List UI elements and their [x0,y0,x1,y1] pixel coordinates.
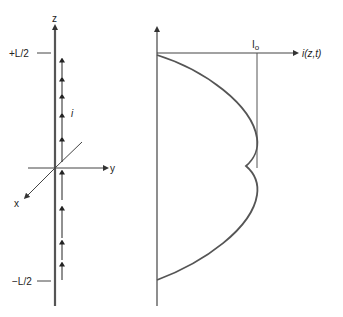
x-axis-label: x [14,198,19,209]
peak-marker-label: Io [252,39,260,52]
z-axis-label: z [52,13,57,24]
x-axis-back [55,142,82,168]
current-distribution-curve [157,55,257,280]
bottom-marker-label: −L/2 [12,276,32,287]
left-panel: z y x +L/2 −L/2 i [9,13,115,306]
dipole-diagram: z y x +L/2 −L/2 i [0,0,343,317]
top-marker-label: +L/2 [9,48,29,59]
current-axis-label: i(z,t) [302,48,321,59]
current-label: i [71,108,74,119]
x-axis [26,168,55,197]
right-panel: i(z,t) Io [157,29,321,306]
y-axis-label: y [110,163,115,174]
